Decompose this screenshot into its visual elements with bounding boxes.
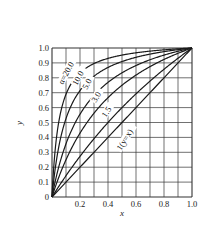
y-tick-label: 0	[45, 192, 49, 202]
y-tick-label: 1.0	[38, 43, 49, 53]
y-tick-label: 0.5	[38, 118, 49, 128]
x-tick-label: 0.4	[103, 199, 114, 209]
curve-label: 1(y=x)	[114, 127, 135, 152]
y-tick-label: 0.7	[38, 88, 49, 98]
y-tick-label: 0.8	[38, 73, 49, 83]
y-axis-label: y	[14, 121, 24, 126]
x-tick-label: 1.0	[187, 199, 198, 209]
equilibrium-chart: 00.10.20.30.40.50.60.70.80.91.0 0.20.40.…	[0, 0, 207, 230]
y-tick-label: 0.1	[38, 177, 49, 187]
x-axis-label: x	[119, 208, 124, 218]
y-tick-label: 0.3	[38, 147, 49, 157]
x-tick-label: 0.2	[75, 199, 86, 209]
x-tick-label: 0.8	[159, 199, 170, 209]
y-tick-label: 0.4	[38, 132, 49, 142]
x-tick-label: 0.6	[131, 199, 142, 209]
y-tick-label: 0.9	[38, 58, 49, 68]
y-axis-ticks: 00.10.20.30.40.50.60.70.80.91.0	[38, 43, 49, 202]
x-axis-ticks: 0.20.40.60.81.0	[75, 199, 198, 209]
y-tick-label: 0.2	[38, 162, 49, 172]
y-tick-label: 0.6	[38, 103, 49, 113]
